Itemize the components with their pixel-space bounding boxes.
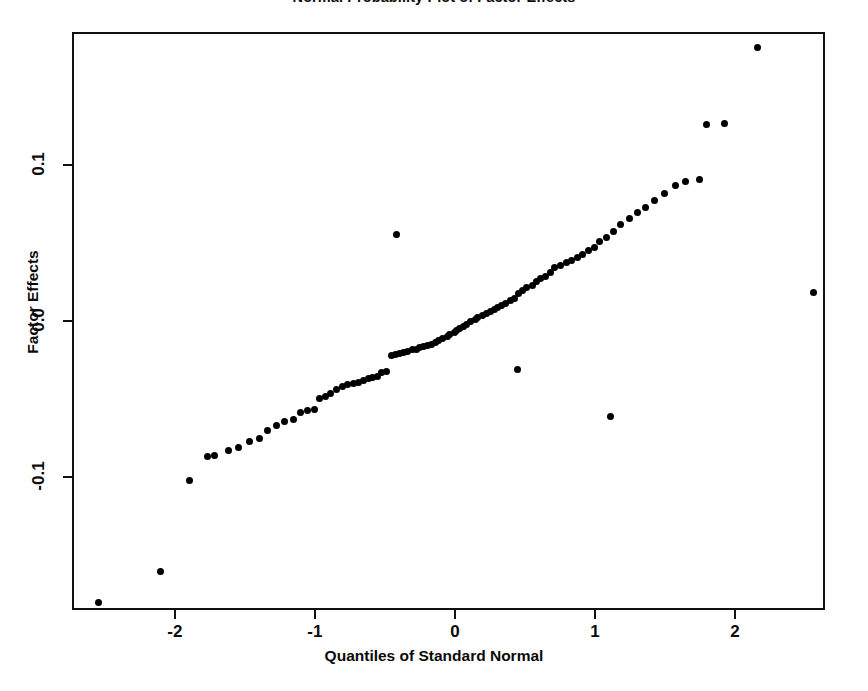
data-point [383, 368, 390, 375]
data-point [281, 418, 288, 425]
scatter-points-layer [74, 34, 823, 608]
data-point [591, 244, 598, 251]
qq-plot-figure: Normal Probability Plot of Factor Effect… [0, 0, 868, 691]
data-point [607, 413, 614, 420]
x-tick-mark [594, 610, 596, 619]
data-point [603, 234, 610, 241]
data-point [393, 231, 400, 238]
data-point [617, 221, 624, 228]
data-point [264, 427, 271, 434]
x-tick-label: 2 [705, 622, 765, 642]
data-point [721, 120, 728, 127]
x-axis-label: Quantiles of Standard Normal [0, 647, 868, 665]
data-point [634, 209, 641, 216]
y-tick-label: -0.1 [29, 455, 49, 497]
y-axis-label: Factor Effects [24, 222, 42, 382]
y-tick-mark [63, 320, 72, 322]
data-point [810, 289, 817, 296]
x-tick-label: -2 [145, 622, 205, 642]
data-point [626, 215, 633, 222]
y-tick-mark [63, 476, 72, 478]
data-point [290, 416, 297, 423]
page-title: Normal Probability Plot of Factor Effect… [0, 0, 868, 7]
data-point [610, 228, 617, 235]
data-point [514, 366, 521, 373]
data-point [273, 422, 280, 429]
y-tick-label: 0.1 [29, 143, 49, 185]
data-point [703, 121, 710, 128]
data-point [297, 409, 304, 416]
x-tick-mark [314, 610, 316, 619]
data-point [225, 447, 232, 454]
data-point [682, 178, 689, 185]
data-point [642, 204, 649, 211]
plot-frame [72, 32, 825, 610]
x-tick-mark [454, 610, 456, 619]
data-point [256, 435, 263, 442]
data-point [311, 406, 318, 413]
x-tick-label: 0 [425, 622, 485, 642]
data-point [596, 238, 603, 245]
data-point [661, 190, 668, 197]
data-point [204, 453, 211, 460]
data-point [304, 407, 311, 414]
x-tick-mark [734, 610, 736, 619]
x-tick-mark [174, 610, 176, 619]
data-point [157, 568, 164, 575]
data-point [672, 182, 679, 189]
data-point [696, 176, 703, 183]
x-tick-label: -1 [285, 622, 345, 642]
y-tick-mark [63, 164, 72, 166]
x-tick-label: 1 [565, 622, 625, 642]
data-point [186, 477, 193, 484]
data-point [246, 438, 253, 445]
data-point [651, 197, 658, 204]
data-point [95, 599, 102, 606]
data-point [754, 44, 761, 51]
data-point [235, 444, 242, 451]
data-point [211, 452, 218, 459]
